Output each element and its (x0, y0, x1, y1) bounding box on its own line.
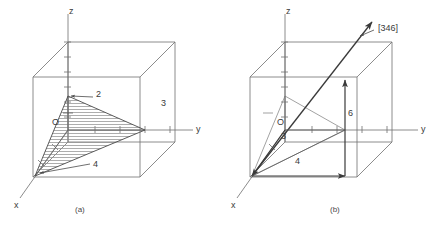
panel-a-x-axis-label: x (14, 201, 19, 210)
panel-b-origin-label: O (277, 118, 284, 127)
panel-b-component-y-label: 4 (295, 157, 300, 166)
panel-b-x-axis-label: x (231, 201, 236, 210)
leader-direction-label-b (360, 30, 374, 36)
panel-b-drawing (237, 14, 418, 198)
panel-b-y-axis-label: y (421, 125, 426, 134)
panel-b-caption: (b) (330, 206, 340, 214)
panel-a-caption: (a) (75, 206, 85, 214)
panel-a-drawing (20, 14, 193, 198)
figure-container: z y x O 2 3 4 (a) z y x O 3 4 6 [346] (b… (0, 0, 433, 233)
panel-a-intercept-y-label: 3 (161, 99, 166, 108)
panel-a-z-axis-label: z (69, 7, 74, 16)
direction-vector-b (252, 22, 372, 176)
panel-a-origin-label: O (52, 118, 59, 127)
panel-b-component-x-label: 3 (281, 132, 286, 141)
axis-ticks-b (269, 42, 387, 150)
panel-b-component-z-label: 6 (348, 109, 353, 118)
panel-b-direction-index-label: [346] (378, 24, 398, 33)
panel-a-intercept-z-label: 2 (96, 90, 101, 99)
panel-b-z-axis-label: z (286, 7, 291, 16)
panel-a-intercept-x-label: 4 (93, 160, 98, 169)
cube-b (250, 42, 392, 177)
figure-drawing (0, 0, 433, 233)
panel-a-y-axis-label: y (196, 125, 201, 134)
